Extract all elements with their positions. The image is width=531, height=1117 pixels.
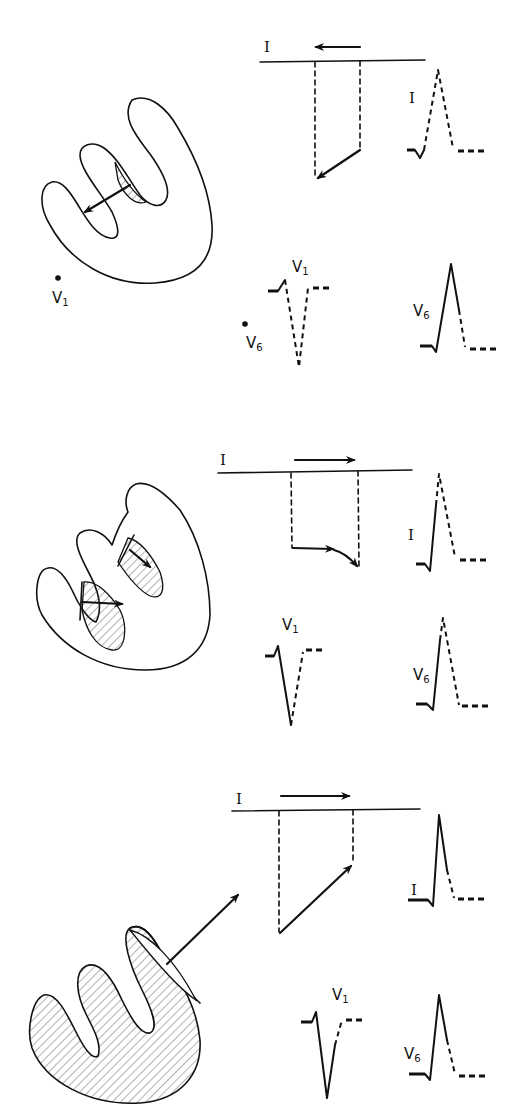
v6-electrode-dot (242, 321, 248, 327)
ecg-label-v1: V1 (332, 986, 349, 1005)
ecg-vector-diagram: V1 V6 I I V1 V6 (0, 0, 531, 1117)
mean-vector-arrow-1 (293, 548, 333, 549)
panel-2: I I V1 V6 (37, 451, 489, 725)
ecg-label-v1: V1 (292, 258, 309, 277)
ecg-lead-i-1: I (407, 70, 487, 158)
heart-diagram-2 (37, 483, 210, 670)
ecg-label-v1: V1 (282, 616, 299, 635)
panel-3: I I V1 V6 (30, 790, 486, 1103)
basal-vector-arrow (167, 895, 238, 964)
ecg-v1-3: V1 (301, 986, 366, 1098)
axis-label: I (220, 451, 226, 469)
axis-label: I (236, 790, 242, 808)
v1-electrode-dot (55, 275, 61, 281)
v6-electrode-label: V6 (246, 334, 263, 353)
ecg-label-v6: V6 (413, 666, 430, 685)
ecg-label-v6: V6 (404, 1045, 421, 1064)
panel-1: V1 V6 I I V1 V6 (42, 38, 496, 367)
septal-vector-arrow (85, 185, 130, 212)
mean-vector-arrow (318, 150, 360, 178)
ecg-v6-2: V6 (413, 618, 489, 710)
v1-electrode-label: V1 (52, 289, 69, 308)
mean-vector-arrow-2 (334, 550, 357, 566)
ecg-label-lead-i: I (408, 526, 414, 544)
ecg-v6-3: V6 (404, 995, 486, 1080)
ecg-label-v6: V6 (413, 302, 430, 321)
ecg-label-lead-i: I (409, 89, 415, 107)
ecg-v6-1: V6 (413, 264, 496, 352)
heart-diagram-3 (30, 895, 238, 1103)
ecg-lead-i-3: I (408, 815, 485, 906)
ecg-label-lead-i: I (411, 881, 417, 899)
ecg-v1-1: V1 (268, 258, 330, 367)
lead-i-axis-3: I (232, 790, 420, 933)
mean-vector-arrow (280, 866, 351, 933)
ecg-v1-2: V1 (265, 616, 322, 725)
axis-label: I (264, 38, 270, 56)
heart-diagram-1 (42, 98, 212, 283)
lead-i-axis-1: I (260, 38, 425, 178)
ecg-lead-i-2: I (408, 474, 486, 571)
lead-i-axis-2: I (218, 451, 412, 567)
